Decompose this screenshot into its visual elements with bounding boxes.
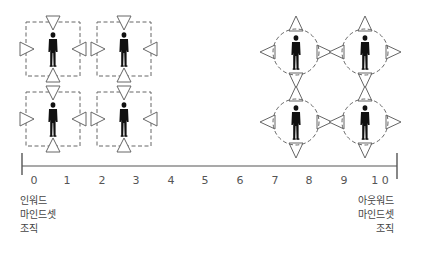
inward-triangle-icon: [117, 68, 131, 82]
inward-person-unit: [20, 86, 86, 152]
inward-triangle-icon: [117, 86, 131, 100]
person-icon: [291, 105, 300, 140]
tick-label-7: 7: [272, 174, 279, 187]
inward-triangle-icon: [91, 112, 105, 126]
person-icon: [360, 35, 369, 70]
inward-triangle-icon: [143, 112, 157, 126]
tick-label-9: 9: [341, 174, 348, 187]
inward-triangle-icon: [91, 42, 105, 56]
inward-triangle-icon: [72, 42, 86, 56]
outward-person-unit: [260, 86, 332, 158]
inward-triangle-icon: [46, 86, 60, 100]
person-icon: [119, 32, 128, 67]
inward-triangle-icon: [46, 138, 60, 152]
caption-line: 아웃워드: [358, 194, 394, 208]
inward-person-unit: [20, 16, 86, 82]
caption-line: 조직: [358, 222, 394, 236]
person-icon: [48, 32, 57, 67]
caption-line: 인워드: [20, 194, 56, 208]
inward-triangle-icon: [20, 112, 34, 126]
person-icon: [48, 102, 57, 137]
outward-person-unit: [329, 86, 401, 158]
inward-triangle-icon: [72, 112, 86, 126]
inward-triangle-icon: [143, 42, 157, 56]
caption-line: 마인드셋: [358, 208, 394, 222]
tick-label-5: 5: [202, 174, 209, 187]
tick-label-10: 1 0: [371, 174, 389, 187]
inward-mindset-group: [20, 16, 157, 152]
outward-person-unit: [329, 16, 401, 88]
tick-label-8: 8: [306, 174, 313, 187]
inward-mindset-caption: 인워드 마인드셋 조직: [20, 194, 56, 236]
inward-triangle-icon: [46, 68, 60, 82]
inward-triangle-icon: [20, 42, 34, 56]
person-icon: [291, 35, 300, 70]
person-icon: [360, 105, 369, 140]
tick-label-2: 2: [99, 174, 106, 187]
inward-triangle-icon: [117, 16, 131, 30]
person-icon: [119, 102, 128, 137]
caption-line: 조직: [20, 222, 56, 236]
inward-person-unit: [91, 16, 157, 82]
tick-label-6: 6: [237, 174, 244, 187]
tick-label-1: 1: [64, 174, 71, 187]
outward-mindset-group: [260, 16, 401, 158]
outward-mindset-caption: 아웃워드 마인드셋 조직: [358, 194, 394, 236]
inward-person-unit: [91, 86, 157, 152]
outward-person-unit: [260, 16, 332, 88]
inward-triangle-icon: [46, 16, 60, 30]
caption-line: 마인드셋: [20, 208, 56, 222]
tick-label-4: 4: [168, 174, 175, 187]
tick-label-3: 3: [133, 174, 140, 187]
tick-label-0: 0: [31, 174, 38, 187]
inward-triangle-icon: [117, 138, 131, 152]
